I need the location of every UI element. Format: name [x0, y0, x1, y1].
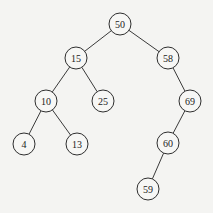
edge-15-10 — [52, 67, 69, 92]
tree-node-50: 50 — [109, 13, 131, 35]
tree-node-13: 13 — [66, 133, 88, 155]
edge-58-69 — [173, 68, 185, 91]
node-label: 69 — [185, 96, 195, 107]
edge-60-59 — [152, 153, 163, 179]
edge-10-4 — [29, 111, 41, 134]
tree-node-58: 58 — [157, 47, 179, 69]
node-label: 4 — [22, 139, 27, 150]
tree-nodes: 5015581025694136059 — [13, 13, 201, 200]
tree-node-4: 4 — [13, 133, 35, 155]
node-label: 15 — [71, 53, 81, 64]
tree-node-69: 69 — [179, 90, 201, 112]
edge-15-25 — [82, 67, 97, 91]
tree-node-15: 15 — [65, 47, 87, 69]
edge-10-13 — [52, 110, 70, 135]
node-label: 58 — [163, 53, 173, 64]
node-label: 50 — [115, 19, 125, 30]
node-label: 60 — [163, 138, 173, 149]
edge-69-60 — [173, 111, 185, 134]
tree-node-60: 60 — [157, 132, 179, 154]
edge-50-58 — [129, 30, 159, 51]
node-label: 13 — [72, 139, 82, 150]
tree-node-25: 25 — [92, 90, 114, 112]
node-label: 10 — [41, 96, 51, 107]
binary-tree-diagram: 5015581025694136059 — [0, 0, 213, 213]
tree-node-10: 10 — [35, 90, 57, 112]
node-label: 25 — [98, 96, 108, 107]
edge-50-15 — [85, 31, 112, 52]
tree-node-59: 59 — [137, 178, 159, 200]
node-label: 59 — [143, 184, 153, 195]
